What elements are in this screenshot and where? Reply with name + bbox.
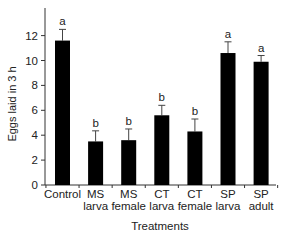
bar: [254, 62, 269, 185]
bar-group: b: [187, 105, 202, 185]
bar: [55, 41, 70, 185]
x-axis-title: Treatments: [131, 220, 189, 232]
y-axis-title: Eggs laid in 3 h: [6, 66, 18, 141]
x-category-label: larva: [83, 200, 109, 212]
x-category-label: CT: [154, 188, 169, 200]
bar-group: a: [221, 28, 236, 185]
significance-letter: a: [225, 28, 232, 40]
y-tick-label: 6: [32, 104, 38, 116]
x-category-label: SP: [253, 188, 269, 200]
y-axis: 024681012: [25, 8, 45, 191]
significance-letter: b: [192, 105, 198, 117]
y-tick-label: 0: [32, 179, 38, 191]
x-category-label: adult: [249, 200, 275, 212]
bar-group: b: [154, 91, 169, 185]
bar: [187, 131, 202, 185]
bars: abbbbaa: [55, 15, 269, 185]
x-category-label: Control: [44, 188, 81, 200]
bar-group: a: [55, 15, 70, 185]
bar-group: a: [254, 42, 269, 185]
significance-letter: b: [92, 117, 98, 129]
y-tick-label: 8: [32, 79, 38, 91]
bar: [221, 53, 236, 185]
x-category-label: female: [178, 200, 213, 212]
bar: [121, 140, 136, 185]
x-category-label: MS: [120, 188, 138, 200]
x-category-label: MS: [87, 188, 105, 200]
bar-group: b: [88, 117, 103, 185]
y-tick-label: 12: [25, 30, 38, 42]
chart-canvas: 024681012 ControlMSlarvaMSfemaleCTlarvaC…: [0, 0, 284, 238]
y-tick-label: 2: [32, 154, 38, 166]
x-category-label: SP: [220, 188, 236, 200]
x-category-label: female: [111, 200, 146, 212]
significance-letter: b: [159, 91, 165, 103]
x-category-label: larva: [149, 200, 175, 212]
bar-chart: 024681012 ControlMSlarvaMSfemaleCTlarvaC…: [0, 0, 284, 238]
bar: [154, 115, 169, 185]
x-category-label: CT: [187, 188, 202, 200]
significance-letter: a: [258, 42, 265, 54]
significance-letter: b: [125, 115, 131, 127]
x-axis: ControlMSlarvaMSfemaleCTlarvaCTfemaleSPl…: [44, 185, 278, 212]
x-category-label: larva: [216, 200, 242, 212]
bar: [88, 141, 103, 185]
bar-group: b: [121, 115, 136, 185]
y-tick-label: 10: [25, 55, 38, 67]
significance-letter: a: [59, 15, 66, 27]
y-tick-label: 4: [32, 129, 39, 141]
